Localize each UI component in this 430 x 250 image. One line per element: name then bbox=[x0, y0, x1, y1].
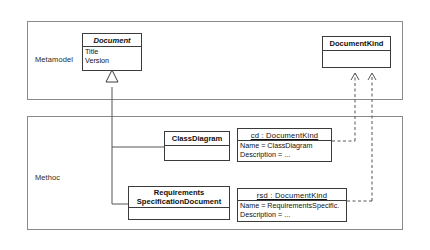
slot-name: Name = RequirementsSpecific. bbox=[240, 202, 344, 211]
object-cd[interactable]: cd : DocumentKind Name = ClassDiagram De… bbox=[237, 128, 332, 162]
slot-name: Name = ClassDiagram bbox=[240, 142, 329, 151]
class-requirementsspecificationdocument-name: Requirements SpecificationDocument bbox=[129, 187, 229, 208]
attribute-version: Version bbox=[85, 57, 139, 66]
diagram-canvas: Metamodel Methoc Document Title Version … bbox=[0, 0, 430, 250]
package-metamodel-label: Metamodel bbox=[35, 55, 73, 64]
class-documentkind[interactable]: DocumentKind bbox=[322, 36, 391, 68]
class-classdiagram[interactable]: ClassDiagram bbox=[164, 131, 230, 161]
object-rsd[interactable]: rsd : DocumentKind Name = RequirementsSp… bbox=[237, 188, 347, 222]
class-classdiagram-name: ClassDiagram bbox=[165, 132, 229, 146]
slot-description: Description = ... bbox=[240, 151, 329, 160]
class-documentkind-name: DocumentKind bbox=[323, 37, 390, 51]
class-requirementsspecificationdocument[interactable]: Requirements SpecificationDocument bbox=[128, 186, 230, 220]
object-cd-slots: Name = ClassDiagram Description = ... bbox=[238, 141, 331, 162]
class-name-line-1: Requirements bbox=[132, 188, 226, 197]
class-classdiagram-attributes bbox=[165, 146, 229, 161]
class-document-attributes: Title Version bbox=[83, 47, 141, 71]
package-method-label: Methoc bbox=[35, 173, 60, 182]
class-document-name: Document bbox=[83, 34, 141, 47]
class-document[interactable]: Document Title Version bbox=[82, 33, 142, 71]
attribute-title: Title bbox=[85, 48, 139, 57]
object-cd-name: cd : DocumentKind bbox=[238, 129, 331, 141]
class-documentkind-attributes bbox=[323, 51, 390, 68]
object-rsd-name: rsd : DocumentKind bbox=[238, 189, 346, 201]
object-rsd-slots: Name = RequirementsSpecific. Description… bbox=[238, 201, 346, 222]
class-name-line-2: SpecificationDocument bbox=[132, 197, 226, 206]
slot-description: Description = ... bbox=[240, 211, 344, 220]
class-requirementsspecificationdocument-attributes bbox=[129, 208, 229, 220]
